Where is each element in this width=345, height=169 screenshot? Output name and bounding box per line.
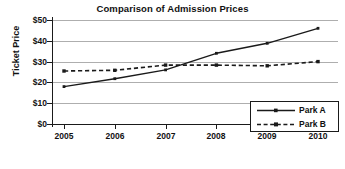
legend-item-park-b: Park B: [251, 118, 340, 131]
series-line: [64, 28, 318, 86]
chart-container: Comparison of Admission Prices Ticket Pr…: [0, 0, 345, 169]
data-point-marker: [266, 42, 269, 45]
data-series-layer: [0, 0, 345, 169]
chart-legend: Park A Park B: [250, 101, 339, 132]
data-point-marker: [215, 52, 218, 55]
series-line: [64, 62, 318, 71]
data-point-marker: [215, 63, 218, 66]
data-point-marker: [113, 69, 116, 72]
data-point-marker: [113, 77, 116, 80]
legend-item-park-a: Park A: [251, 104, 340, 117]
data-point-marker: [62, 69, 65, 72]
legend-key-solid-line-icon: [256, 104, 296, 117]
legend-key-dashed-line-icon: [256, 118, 296, 131]
data-point-marker: [317, 27, 320, 30]
series-park-a: [63, 27, 320, 88]
data-point-marker: [266, 64, 269, 67]
data-point-marker: [164, 69, 167, 72]
data-point-marker: [316, 60, 319, 63]
data-point-marker: [63, 85, 66, 88]
legend-label-park-a: Park A: [299, 104, 326, 117]
legend-label-park-b: Park B: [299, 118, 326, 131]
data-point-marker: [164, 63, 167, 66]
